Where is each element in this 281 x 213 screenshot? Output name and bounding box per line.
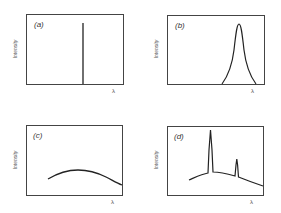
spectrum-continuum-peaks-d <box>0 0 281 213</box>
